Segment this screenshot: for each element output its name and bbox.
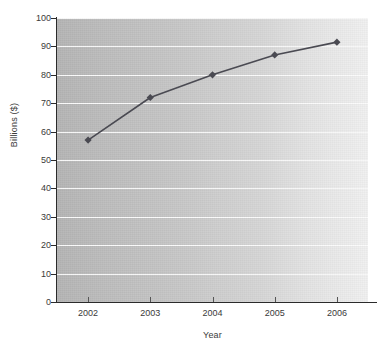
x-axis-tick-label: 2002 [66,309,110,318]
x-axis-title: Year [57,330,368,340]
plot-area [57,18,368,302]
y-axis-tick-mark [51,274,56,275]
y-axis-tick-label: 40 [25,184,51,193]
y-axis-tick-mark [51,188,56,189]
data-point-marker [271,51,278,58]
series-markers [85,39,341,144]
y-axis-tick-mark [51,132,56,133]
y-axis-tick-mark [51,18,56,19]
y-axis-tick-mark [51,302,56,303]
x-axis-tick-label: 2004 [191,309,235,318]
y-axis-tick-label: 70 [25,99,51,108]
y-axis-tick-mark [51,75,56,76]
y-axis-tick-mark [51,103,56,104]
y-axis-title: Billions ($) [9,75,19,175]
y-axis-tick-label: 20 [25,241,51,250]
x-axis-tick-label: 2006 [315,309,359,318]
y-axis-tick-label: 90 [25,42,51,51]
series-layer [57,18,368,302]
y-axis-tick-label: 10 [25,269,51,278]
data-point-marker [333,39,340,46]
data-point-marker [209,71,216,78]
y-axis-tick-label: 50 [25,156,51,165]
y-axis-tick-mark [51,217,56,218]
y-axis-tick-mark [51,46,56,47]
y-axis-tick-mark [51,160,56,161]
x-axis-tick-label: 2003 [128,309,172,318]
line-chart: Billions ($) 0102030405060708090100 2002… [0,0,387,354]
y-axis-tick-label: 0 [25,298,51,307]
x-axis-tick-label: 2005 [253,309,297,318]
y-axis-tick-label: 100 [25,14,51,23]
x-axis-line [51,302,377,303]
series-line-billions [88,42,337,140]
y-axis-tick-label: 30 [25,212,51,221]
y-axis-tick-label: 80 [25,70,51,79]
y-axis-tick-mark [51,245,56,246]
y-axis-tick-label: 60 [25,127,51,136]
